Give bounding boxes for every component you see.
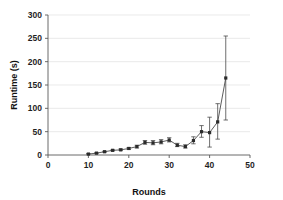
x-tick-label: 40 bbox=[205, 160, 215, 170]
y-tick-label: 100 bbox=[28, 103, 42, 113]
error-bars bbox=[86, 36, 228, 154]
x-tick-label: 50 bbox=[245, 160, 255, 170]
x-tick-label: 30 bbox=[164, 160, 174, 170]
y-tick-label: 150 bbox=[28, 80, 42, 90]
data-point-marker bbox=[184, 145, 187, 148]
data-point-marker bbox=[127, 147, 130, 150]
x-axis-title: Rounds bbox=[132, 187, 166, 197]
data-point-marker bbox=[119, 148, 122, 151]
data-point-marker bbox=[208, 131, 211, 134]
data-point-marker bbox=[200, 130, 203, 133]
data-point-marker bbox=[151, 141, 154, 144]
data-point-marker bbox=[143, 141, 146, 144]
y-axis-title: Runtime (s) bbox=[9, 60, 19, 110]
x-axis-ticks: 01020304050 bbox=[46, 155, 255, 170]
y-tick-label: 200 bbox=[28, 57, 42, 67]
data-point-marker bbox=[95, 152, 98, 155]
x-tick-label: 20 bbox=[124, 160, 134, 170]
x-tick-label: 0 bbox=[46, 160, 51, 170]
y-tick-label: 50 bbox=[33, 127, 43, 137]
x-tick-label: 10 bbox=[84, 160, 94, 170]
y-tick-label: 0 bbox=[37, 150, 42, 160]
chart-canvas: 01020304050 050100150200250300 Rounds Ru… bbox=[0, 0, 283, 200]
y-tick-label: 300 bbox=[28, 10, 42, 20]
gridlines bbox=[48, 15, 250, 132]
data-point-marker bbox=[87, 152, 90, 155]
data-point-marker bbox=[176, 144, 179, 147]
data-point-marker bbox=[160, 140, 163, 143]
data-point-marker bbox=[135, 145, 138, 148]
series-line-runtime bbox=[88, 78, 225, 154]
data-point-marker bbox=[192, 139, 195, 142]
data-point-marker bbox=[168, 138, 171, 141]
y-tick-label: 250 bbox=[28, 33, 42, 43]
data-point-marker bbox=[224, 76, 227, 79]
data-point-marker bbox=[216, 120, 219, 123]
chart-figure: 01020304050 050100150200250300 Rounds Ru… bbox=[0, 0, 283, 200]
y-axis-ticks: 050100150200250300 bbox=[28, 10, 48, 160]
data-point-markers bbox=[87, 76, 228, 155]
data-point-marker bbox=[111, 149, 114, 152]
data-point-marker bbox=[103, 150, 106, 153]
